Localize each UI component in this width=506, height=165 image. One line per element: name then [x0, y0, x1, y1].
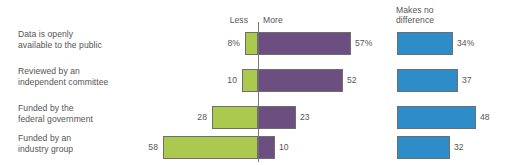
bar-less-0	[245, 32, 258, 55]
legend-label-more: More	[263, 15, 323, 25]
value-more-0: 57%	[355, 38, 400, 48]
value-less-2: 28	[167, 112, 207, 122]
value-no-difference-3: 32	[454, 142, 499, 152]
legend-label-less: Less	[208, 15, 248, 25]
bar-more-2	[258, 106, 296, 129]
bar-less-3	[163, 136, 258, 159]
bar-no-difference-3	[397, 136, 450, 159]
bar-more-1	[258, 69, 343, 92]
value-less-3: 58	[118, 142, 158, 152]
bar-no-difference-1	[397, 69, 458, 92]
diverging-bar-chart: Less More Makes no difference Data is op…	[0, 0, 506, 165]
bar-less-1	[242, 69, 258, 92]
bar-no-difference-0	[397, 32, 453, 55]
value-no-difference-2: 48	[480, 112, 506, 122]
value-no-difference-0: 34%	[457, 38, 502, 48]
value-more-3: 10	[279, 142, 324, 152]
bar-more-3	[258, 136, 275, 159]
category-label-2: Funded by the federal government	[18, 103, 143, 124]
value-no-difference-1: 37	[462, 75, 506, 85]
value-less-1: 10	[197, 75, 237, 85]
category-label-0: Data is openly available to the public	[18, 29, 143, 50]
legend-label-no-difference: Makes no difference	[396, 5, 486, 26]
category-label-1: Reviewed by an independent committee	[18, 66, 143, 87]
bar-no-difference-2	[397, 106, 476, 129]
bar-more-0	[258, 32, 351, 55]
bar-less-2	[212, 106, 258, 129]
value-more-1: 52	[347, 75, 392, 85]
value-less-0: 8%	[200, 38, 240, 48]
value-more-2: 23	[300, 112, 345, 122]
